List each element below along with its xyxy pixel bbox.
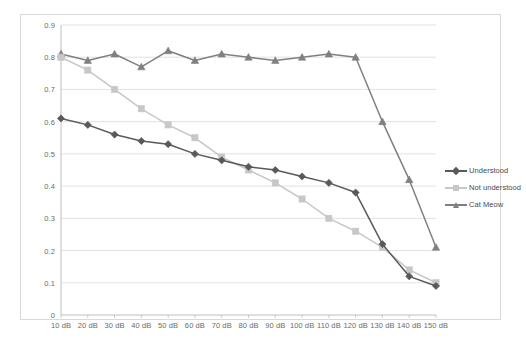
data-point-marker xyxy=(138,106,144,112)
x-axis-tick-label: 20 dB xyxy=(78,321,98,330)
data-point-marker xyxy=(406,176,413,183)
legend-swatch-icon xyxy=(445,166,467,176)
data-point-marker xyxy=(299,196,305,202)
y-axis-tick-label: 0.8 xyxy=(44,53,55,62)
data-point-marker xyxy=(432,244,439,251)
data-point-marker xyxy=(272,180,278,186)
y-axis-tick-label: 0.9 xyxy=(44,21,55,30)
x-axis-tick-label: 90 dB xyxy=(265,321,285,330)
x-axis-tick-label: 70 dB xyxy=(212,321,232,330)
data-point-marker xyxy=(111,131,118,138)
x-axis-tick-label: 100 dB xyxy=(290,321,314,330)
y-axis-tick-label: 0.3 xyxy=(44,214,55,223)
data-point-marker xyxy=(111,86,117,92)
y-axis-tick-label: 0.6 xyxy=(44,117,55,126)
data-point-marker xyxy=(84,121,91,128)
x-axis-tick-label: 50 dB xyxy=(158,321,178,330)
x-axis-tick-label: 40 dB xyxy=(131,321,151,330)
data-point-marker xyxy=(325,179,332,186)
data-point-marker xyxy=(111,50,118,57)
x-axis-tick-label: 140 dB xyxy=(397,321,421,330)
legend-item-label: Understood xyxy=(469,166,508,175)
x-axis-tick-label: 120 dB xyxy=(343,321,367,330)
chart-plot-wrapper: 0.90.80.70.60.50.40.30.20.10 10 dB20 dB3… xyxy=(21,15,502,321)
x-axis-tick-label: 110 dB xyxy=(317,321,341,330)
x-axis: 10 dB20 dB30 dB40 dB50 dB60 dB70 dB80 dB… xyxy=(61,317,436,333)
data-point-marker xyxy=(379,118,386,125)
data-point-marker xyxy=(138,63,145,70)
legend-item[interactable]: Understood xyxy=(445,163,526,178)
y-axis: 0.90.80.70.60.50.40.30.20.10 xyxy=(29,15,55,321)
data-point-marker xyxy=(164,47,171,54)
x-axis-tick-label: 30 dB xyxy=(105,321,125,330)
y-axis-tick-label: 0.7 xyxy=(44,85,55,94)
x-axis-tick-label: 150 dB xyxy=(424,321,448,330)
legend-item-label: Cat Meow xyxy=(469,200,503,209)
data-point-marker xyxy=(326,215,332,221)
y-axis-tick-label: 0 xyxy=(51,311,55,320)
plot-area xyxy=(61,25,436,315)
legend-item[interactable]: Cat Meow xyxy=(445,197,526,212)
series-line xyxy=(61,118,436,286)
data-point-marker xyxy=(298,173,305,180)
y-axis-tick-label: 0.4 xyxy=(44,182,55,191)
data-point-marker xyxy=(138,137,145,144)
data-point-marker xyxy=(165,122,171,128)
data-point-marker xyxy=(272,166,279,173)
data-point-marker xyxy=(352,189,359,196)
series-cat-meow xyxy=(57,47,439,250)
x-axis-tick-label: 60 dB xyxy=(185,321,205,330)
x-axis-tick-label: 130 dB xyxy=(370,321,394,330)
data-series-layer xyxy=(61,25,436,315)
legend-item[interactable]: Not understood xyxy=(445,180,526,195)
chart-frame: 0.90.80.70.60.50.40.30.20.10 10 dB20 dB3… xyxy=(20,14,501,320)
data-point-marker xyxy=(165,141,172,148)
x-axis-tick-label: 10 dB xyxy=(51,321,71,330)
data-point-marker xyxy=(57,115,64,122)
data-point-marker xyxy=(353,228,359,234)
series-understood xyxy=(57,115,439,290)
legend-swatch-icon xyxy=(445,200,467,210)
y-axis-tick-label: 0.1 xyxy=(44,278,55,287)
y-axis-tick-label: 0.5 xyxy=(44,149,55,158)
x-axis-tick-label: 80 dB xyxy=(238,321,258,330)
legend-item-label: Not understood xyxy=(469,183,521,192)
chart-legend: UnderstoodNot understoodCat Meow xyxy=(445,163,526,214)
data-point-marker xyxy=(191,150,198,157)
data-point-marker xyxy=(406,267,412,273)
legend-swatch-icon xyxy=(445,183,467,193)
series-line xyxy=(61,51,436,248)
y-axis-tick-label: 0.2 xyxy=(44,246,55,255)
data-point-marker xyxy=(192,135,198,141)
data-point-marker xyxy=(85,67,91,73)
data-point-marker xyxy=(58,54,64,60)
